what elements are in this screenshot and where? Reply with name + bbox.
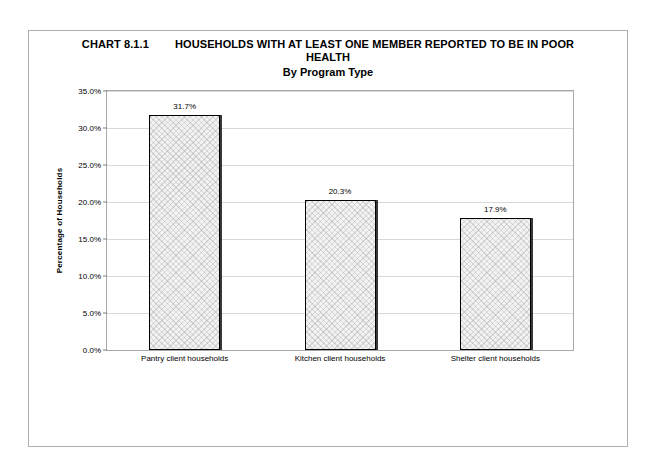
- y-axis-tick-label: 5.0%: [53, 309, 101, 318]
- y-axis-tick-mark: [103, 202, 107, 203]
- y-axis-title-label: Percentage of Households: [56, 167, 65, 273]
- y-axis-tick-label: 25.0%: [53, 161, 101, 170]
- chart-subtitle: By Program Type: [28, 65, 628, 79]
- y-axis-tick-mark: [103, 165, 107, 166]
- y-axis-tick-label: 35.0%: [53, 87, 101, 96]
- bar: [460, 218, 531, 350]
- chart-title-block: CHART 8.1.1HOUSEHOLDS WITH AT LEAST ONE …: [28, 38, 628, 79]
- chart-number: CHART 8.1.1: [82, 38, 149, 51]
- x-axis-line: [107, 350, 573, 351]
- y-axis-tick-mark: [103, 91, 107, 92]
- x-axis-category-label: Kitchen client households: [260, 354, 420, 363]
- y-axis-tick-label: 30.0%: [53, 124, 101, 133]
- y-axis-tick-label: 20.0%: [53, 198, 101, 207]
- y-axis-tick-label: 10.0%: [53, 272, 101, 281]
- bar: [149, 115, 220, 350]
- y-axis-tick-label: 0.0%: [53, 346, 101, 355]
- bar: [305, 200, 376, 350]
- chart-canvas: Percentage of Households 0.0%5.0%10.0%15…: [52, 90, 572, 350]
- x-axis-category-label: Pantry client households: [105, 354, 265, 363]
- y-axis-tick-mark: [103, 276, 107, 277]
- y-axis-tick-mark: [103, 313, 107, 314]
- chart-title-main-1: HOUSEHOLDS WITH AT LEAST ONE MEMBER REPO…: [175, 38, 574, 50]
- x-axis-category-label: Shelter client households: [415, 354, 575, 363]
- gridline: [107, 91, 573, 92]
- bar-value-label: 20.3%: [280, 187, 400, 196]
- bar-value-label: 31.7%: [125, 102, 245, 111]
- y-axis-tick-mark: [103, 239, 107, 240]
- chart-title-main-2: HEALTH: [28, 51, 628, 64]
- y-axis-tick-mark: [103, 128, 107, 129]
- bar-value-label: 17.9%: [435, 205, 555, 214]
- y-axis-tick-label: 15.0%: [53, 235, 101, 244]
- plot-area: 0.0%5.0%10.0%15.0%20.0%25.0%30.0%35.0%31…: [106, 90, 574, 351]
- chart-title-line-1: CHART 8.1.1HOUSEHOLDS WITH AT LEAST ONE …: [28, 38, 628, 51]
